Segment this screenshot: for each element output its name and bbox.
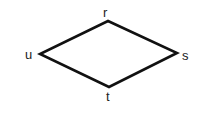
vertex-label-u: u [25, 47, 32, 62]
vertex-label-s: s [182, 48, 189, 63]
vertex-label-t: t [106, 89, 110, 104]
rhombus-diagram: r s t u [0, 0, 198, 129]
vertex-label-r: r [103, 5, 108, 20]
rhombus-rstu [40, 21, 177, 87]
